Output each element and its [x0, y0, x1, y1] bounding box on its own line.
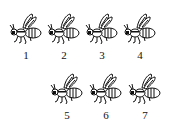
- bee-figure-6: 6: [88, 73, 124, 123]
- bee-figure-1: 1: [8, 13, 44, 63]
- bee-icon: [49, 73, 85, 105]
- figure-number-label: 5: [49, 109, 85, 121]
- bee-icon: [84, 13, 120, 45]
- bee-figure-4: 4: [122, 13, 158, 63]
- bee-figure-5: 5: [49, 73, 85, 123]
- figure-number-label: 2: [46, 49, 82, 61]
- bee-icon: [127, 73, 163, 105]
- bee-icon: [122, 13, 158, 45]
- bee-figure-3: 3: [84, 13, 120, 63]
- bee-figure-7: 7: [127, 73, 163, 123]
- figure-number-label: 7: [127, 109, 163, 121]
- bee-icon: [8, 13, 44, 45]
- figure-number-label: 4: [122, 49, 158, 61]
- bee-icon: [46, 13, 82, 45]
- bee-figure-2: 2: [46, 13, 82, 63]
- figure-number-label: 3: [84, 49, 120, 61]
- figure-number-label: 1: [8, 49, 44, 61]
- figure-number-label: 6: [88, 109, 124, 121]
- bee-icon: [88, 73, 124, 105]
